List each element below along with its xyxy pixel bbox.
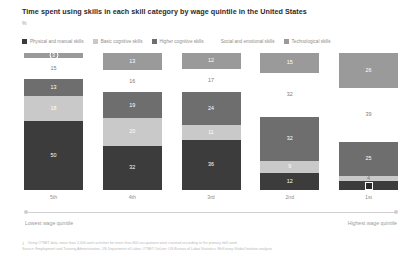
bar-segment-value: 18 (51, 106, 57, 111)
highlight-square-icon (365, 182, 373, 190)
bar-segment-value: 32 (129, 165, 135, 170)
axis-line (26, 212, 396, 213)
legend-item-2[interactable]: Higher cognitive skills (152, 39, 204, 44)
bar-segment[interactable]: 36 (182, 140, 241, 189)
legend-item-label: Basic cognitive skills (101, 39, 143, 44)
stacked-bar-plot: 3151318501316192032121724113615323291226… (22, 53, 400, 190)
legend-item-label: Physical and manual skills (30, 39, 84, 44)
bar-segment[interactable]: 32 (260, 73, 319, 117)
bar-segment[interactable]: 16 (103, 70, 162, 92)
bar-segment-value: 39 (366, 112, 372, 117)
x-axis-tick-3rd: 3rd (182, 194, 241, 200)
source-text: Source: Employment and Training Administ… (22, 247, 400, 251)
bar-segment[interactable]: 32 (260, 117, 319, 161)
bar-segment[interactable]: 32 (103, 146, 162, 190)
x-axis-tick-5th: 5th (24, 194, 83, 200)
legend-item-label: Social and emotional skills (221, 39, 275, 44)
bar-segment-value: 17 (208, 78, 214, 83)
bar-segment[interactable]: 18 (24, 96, 83, 121)
bar-segment[interactable]: 15 (260, 53, 319, 74)
bar-segment[interactable]: 26 (339, 53, 398, 89)
bar-segment[interactable]: 12 (260, 173, 319, 189)
bar-segment[interactable]: 13 (24, 79, 83, 97)
unit-subtitle: % (22, 20, 400, 26)
x-axis-tick-2nd: 2nd (260, 194, 319, 200)
lowest-wage-label: Lowest wage quintile (25, 220, 73, 226)
bar-segment-value: 12 (287, 179, 293, 184)
legend-swatch-icon (152, 39, 157, 44)
bar-column-3rd[interactable]: 1217241136 (182, 53, 241, 190)
footnotes: 1 Using O*NET data, more than 2,000 work… (22, 241, 400, 251)
x-axis-tick-1st: 1st (339, 194, 398, 200)
bar-segment[interactable]: 9 (260, 161, 319, 173)
bar-segment-value: 36 (208, 162, 214, 167)
bar-segment[interactable]: 24 (182, 92, 241, 125)
bar-segment-value: 15 (287, 60, 293, 65)
footnote-text: Using O*NET data, more than 2,000 work a… (28, 241, 237, 245)
bar-segment[interactable]: 17 (182, 69, 241, 92)
legend-swatch-icon (93, 39, 98, 44)
bar-segment-value: 15 (51, 66, 57, 71)
bar-segment[interactable]: 25 (339, 142, 398, 176)
bar-segment-value: 26 (366, 68, 372, 73)
bar-segment[interactable]: 13 (103, 53, 162, 71)
bar-segment-value: 24 (208, 106, 214, 111)
axis-cap-right-icon (394, 210, 398, 214)
bar-segment-value: 13 (51, 85, 57, 90)
legend-item-4[interactable]: Technological skills (284, 39, 331, 44)
bar-segment[interactable]: 12 (182, 53, 241, 69)
wage-axis-arrow (22, 209, 400, 219)
legend-item-label: Technological skills (292, 39, 331, 44)
bar-segment-value: 13 (129, 59, 135, 64)
bar-column-2nd[interactable]: 153232912 (260, 53, 319, 190)
bar-segment-value: 11 (208, 130, 214, 135)
bar-segment[interactable]: 20 (103, 118, 162, 145)
highest-wage-label: Highest wage quintile (348, 220, 397, 226)
legend-item-1[interactable]: Basic cognitive skills (93, 39, 143, 44)
bar-segment[interactable]: 11 (182, 125, 241, 140)
bar-segment[interactable]: 15 (24, 58, 83, 79)
bar-segment-value: 12 (208, 58, 214, 63)
bar-segment[interactable]: 39 (339, 88, 398, 141)
chart-page: Time spent using skills in each skill ca… (0, 0, 414, 255)
bar-segment[interactable]: 19 (103, 92, 162, 118)
chart-legend: Physical and manual skillsBasic cognitiv… (22, 39, 400, 44)
bar-column-5th[interactable]: 315131850 (24, 53, 83, 190)
legend-swatch-icon (284, 39, 289, 44)
bar-column-1st[interactable]: 26392546 (339, 53, 398, 190)
legend-swatch-icon (213, 39, 218, 44)
bar-segment-value: 25 (366, 156, 372, 161)
bar-segment-value: 32 (287, 92, 293, 97)
legend-item-3[interactable]: Social and emotional skills (213, 39, 275, 44)
bar-segment[interactable]: 50 (24, 121, 83, 190)
bar-segment-value: 19 (129, 103, 135, 108)
legend-item-label: Higher cognitive skills (160, 39, 204, 44)
legend-swatch-icon (22, 39, 27, 44)
bar-column-4th[interactable]: 1316192032 (103, 53, 162, 190)
bar-segment[interactable]: 6 (339, 181, 398, 189)
bar-segment-value: 9 (288, 164, 291, 169)
bar-segment-value: 50 (51, 153, 57, 158)
bar-segment-value: 20 (129, 129, 135, 134)
x-axis-labels: 5th4th3rd2nd1st (22, 194, 400, 200)
axis-cap-left-icon (24, 210, 28, 214)
page-title: Time spent using skills in each skill ca… (22, 8, 400, 17)
bar-segment-value: 32 (287, 136, 293, 141)
axis-end-labels: Lowest wage quintile Highest wage quinti… (22, 220, 400, 226)
footnote-row: 1 Using O*NET data, more than 2,000 work… (22, 241, 400, 246)
legend-item-0[interactable]: Physical and manual skills (22, 39, 84, 44)
bar-segment-value: 16 (129, 79, 135, 84)
x-axis-tick-4th: 4th (103, 194, 162, 200)
